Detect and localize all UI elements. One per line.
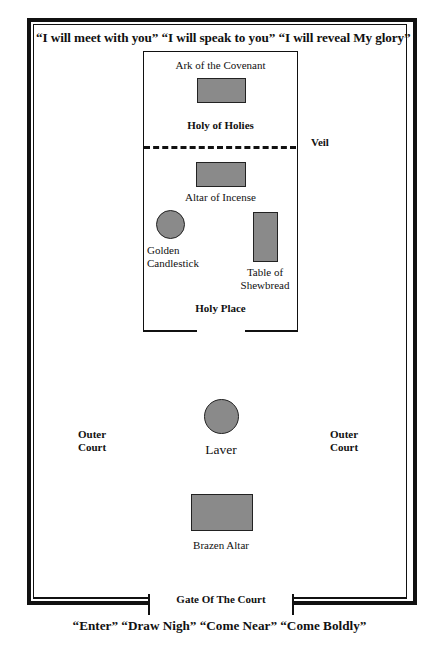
gate-of-the-court-label: Gate Of The Court xyxy=(150,593,292,606)
altar-of-incense-shape xyxy=(196,162,246,187)
court-wall-bottom-left xyxy=(27,601,149,605)
brazen-altar-label: Brazen Altar xyxy=(171,539,271,552)
outer-court-left-line1: Outer xyxy=(78,428,106,441)
ark-of-the-covenant-shape xyxy=(197,78,246,103)
table-of-shewbread-shape xyxy=(253,212,278,262)
veil-label: Veil xyxy=(311,136,329,149)
sanctuary-wall-bottom-right xyxy=(245,330,298,332)
laver-label: Laver xyxy=(171,442,271,458)
laver-shape xyxy=(204,399,239,434)
golden-candlestick-label-line2: Candlestick xyxy=(147,257,199,270)
holy-place-title: Holy Place xyxy=(143,302,298,315)
altar-of-incense-label: Altar of Incense xyxy=(143,191,298,204)
outer-court-left-line2: Court xyxy=(78,441,106,454)
holy-of-holies-title: Holy of Holies xyxy=(143,119,298,132)
top-caption: “I will meet with you” “I will speak to … xyxy=(36,30,404,46)
ark-label: Ark of the Covenant xyxy=(143,59,298,72)
sanctuary-wall-bottom-left xyxy=(143,330,197,332)
bottom-caption: “Enter” “Draw Nigh” “Come Near” “Come Bo… xyxy=(0,618,439,634)
veil-dashed-line xyxy=(144,146,296,149)
golden-candlestick-label-line1: Golden xyxy=(147,244,179,257)
golden-candlestick-shape xyxy=(156,210,185,239)
table-of-shewbread-label-line2: Shewbread xyxy=(237,279,293,292)
court-wall-bottom-left-inner xyxy=(33,597,149,599)
gate-post-right xyxy=(292,594,294,615)
table-of-shewbread-label-line1: Table of xyxy=(237,266,293,279)
court-wall-bottom-right-inner xyxy=(293,597,407,599)
brazen-altar-shape xyxy=(191,494,253,531)
outer-court-right-line1: Outer xyxy=(330,428,358,441)
court-wall-bottom-right xyxy=(293,601,413,605)
outer-court-right-line2: Court xyxy=(330,441,358,454)
